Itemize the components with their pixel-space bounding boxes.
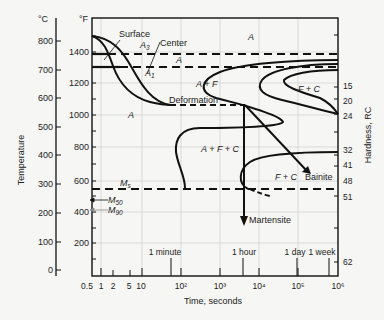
celsius-tick: 300	[38, 179, 53, 189]
bainite-start-curve	[241, 152, 338, 189]
hardness-axis-title: Hardness, RC	[363, 106, 373, 163]
celsius-tick: 200	[38, 208, 53, 218]
label-bainite: Bainite	[305, 172, 333, 182]
time-tick: 5	[127, 281, 132, 291]
region-f-plus-c-top: F + C	[298, 84, 321, 94]
region-f-plus-c-bottom: F + C	[275, 172, 298, 182]
fahrenheit-tick: 200	[74, 238, 89, 248]
label-center: Center	[160, 38, 187, 48]
celsius-tick: 700	[38, 65, 53, 75]
hardness-tick: 48	[343, 176, 353, 186]
label-ms: Ms	[120, 178, 132, 189]
label-deformation: Deformation	[169, 95, 218, 105]
time-tick: 0.5	[81, 281, 93, 291]
label-a1: A1	[144, 68, 155, 79]
time-tick: 2	[111, 281, 116, 291]
region-a-plus-f-plus-c: A + F + C	[200, 144, 240, 154]
time-tick: 10⁶	[332, 281, 345, 291]
fahrenheit-tick: 400	[74, 207, 89, 217]
celsius-tick: 0	[48, 265, 53, 275]
region-a-top: A	[247, 32, 254, 42]
fahrenheit-tick: 1400	[69, 47, 89, 57]
time-tick: 10	[136, 281, 146, 291]
hardness-tick: 62	[343, 257, 353, 267]
celsius-axis: °C 800 700 600 500 400 300 200 100 0 Tem…	[16, 14, 61, 276]
fahrenheit-unit: °F	[79, 14, 89, 24]
marker-1-minute: 1 minute	[149, 247, 182, 257]
marker-1-hour: 1 hour	[232, 247, 256, 257]
label-a3: A3	[139, 40, 150, 51]
martensite-arrowhead	[240, 216, 248, 226]
hardness-tick: 24	[343, 111, 353, 121]
time-tick: 10³	[214, 281, 226, 291]
hardness-tick: 41	[343, 160, 353, 170]
region-a-between: A	[175, 55, 182, 65]
fahrenheit-tick: 600	[74, 176, 89, 186]
fahrenheit-tick: 800	[74, 142, 89, 152]
fahrenheit-tick: 1200	[69, 78, 89, 88]
hardness-tick: 51	[343, 192, 353, 202]
hardness-tick: 32	[343, 145, 353, 155]
marker-1-day: 1 day	[285, 247, 307, 257]
fahrenheit-tick: 1000	[69, 110, 89, 120]
time-tick: 10⁵	[292, 281, 305, 291]
celsius-tick: 500	[38, 122, 53, 132]
label-surface: Surface	[119, 29, 150, 39]
ttt-diagram: °C 800 700 600 500 400 300 200 100 0 Tem…	[0, 0, 384, 320]
celsius-tick: 400	[38, 150, 53, 160]
label-m90: M90	[108, 205, 123, 216]
celsius-unit: °C	[38, 14, 49, 24]
diagram-canvas: °C 800 700 600 500 400 300 200 100 0 Tem…	[0, 0, 384, 320]
hardness-tick: 15	[343, 81, 353, 91]
hardness-tick: 20	[343, 96, 353, 106]
time-tick: 10⁴	[252, 281, 265, 291]
celsius-tick: 100	[38, 237, 53, 247]
celsius-tick: 600	[38, 93, 53, 103]
time-tick: 1	[99, 281, 104, 291]
region-a-left: A	[127, 110, 134, 120]
temperature-axis-title: Temperature	[16, 135, 26, 186]
hardness-axis: 15 20 24 32 41 48 51 62 Hardness, RC	[334, 35, 373, 267]
marker-1-week: 1 week	[309, 247, 337, 257]
celsius-tick: 800	[38, 36, 53, 46]
time-axis-title: Time, seconds	[184, 296, 243, 306]
label-martensite: Martensite	[249, 215, 291, 225]
region-a-plus-f: A + F	[195, 79, 218, 89]
time-tick: 10²	[175, 281, 187, 291]
cooling-curves	[92, 36, 311, 226]
